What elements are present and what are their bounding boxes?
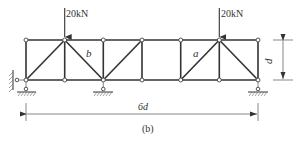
figure-caption: (b) — [142, 123, 154, 135]
truss-diagram: b a — [0, 0, 297, 143]
member-label-a: a — [193, 47, 199, 59]
load-label-left: 20kN — [66, 8, 88, 19]
diagonal-member-b — [65, 40, 104, 80]
height-dimension-label: d — [262, 58, 274, 64]
diagonal-panel-6 — [219, 40, 258, 80]
height-dimension — [273, 40, 293, 80]
span-dimension-label: 6d — [138, 101, 149, 112]
diagonal-panel-3 — [103, 40, 142, 80]
member-label-b: b — [86, 47, 92, 59]
vertical-members — [26, 40, 258, 80]
diagonal-member-a — [181, 40, 220, 80]
load-label-right: 20kN — [221, 8, 243, 19]
diagonal-panel-1 — [26, 40, 65, 80]
